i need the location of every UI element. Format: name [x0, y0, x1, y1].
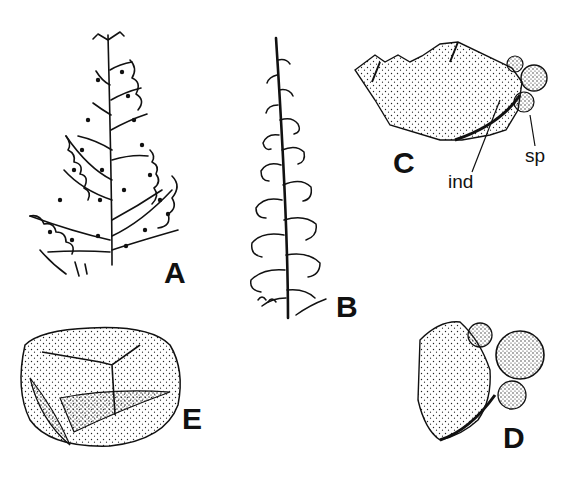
figure-canvas: A B C D E ind sp — [0, 0, 565, 477]
panel-b-frond-drawing — [251, 38, 326, 318]
panel-label-b: B — [336, 292, 358, 322]
panel-e-spore-drawing — [21, 328, 180, 447]
panel-c-pinnule-drawing — [355, 42, 547, 172]
illustration-drawings — [0, 0, 565, 477]
panel-label-a: A — [164, 258, 186, 288]
panel-a-frond-drawing — [30, 32, 178, 276]
annotation-indusium: ind — [448, 172, 473, 191]
annotation-sporangium: sp — [525, 146, 545, 165]
panel-label-c: C — [393, 148, 415, 178]
panel-label-e: E — [182, 404, 202, 434]
panel-d-segment-drawing — [418, 322, 544, 440]
panel-label-d: D — [503, 423, 525, 453]
